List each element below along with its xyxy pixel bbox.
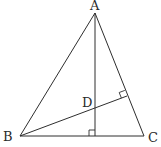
label-c: C xyxy=(148,130,158,145)
right-angle-marker-bc xyxy=(89,130,95,136)
side-ca xyxy=(95,13,144,136)
altitude-from-b xyxy=(20,96,127,136)
label-d: D xyxy=(82,95,92,110)
side-ab xyxy=(20,13,95,136)
triangle-diagram: A B C D xyxy=(0,0,161,147)
label-a: A xyxy=(89,0,100,13)
label-b: B xyxy=(3,129,13,144)
